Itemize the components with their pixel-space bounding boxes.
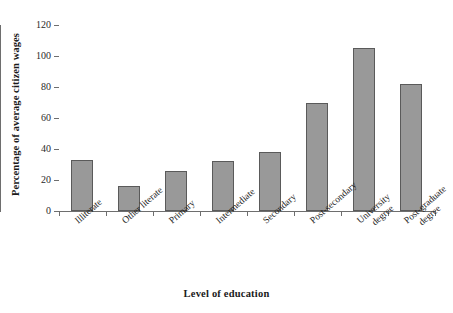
y-axis-tick-label: 120 <box>36 18 51 31</box>
y-axis-title: Percentage of average citizen wages <box>4 7 26 222</box>
bar <box>306 103 328 212</box>
y-axis-tick-label: 100 <box>36 49 51 62</box>
y-axis-tick-label: 0 <box>46 204 51 217</box>
x-axis-tick-mark <box>153 211 154 216</box>
y-axis-tick-mark <box>54 87 59 88</box>
bar <box>400 84 422 211</box>
y-axis-tick-mark <box>54 25 59 26</box>
y-axis-tick-mark <box>54 180 59 181</box>
x-axis-tick-mark <box>294 211 295 216</box>
x-axis-tick-mark <box>59 211 60 216</box>
y-axis-tick-label: 40 <box>41 142 51 155</box>
y-axis-tick-mark <box>54 118 59 119</box>
bar-chart-figure: Percentage of average citizen wages 0204… <box>0 0 453 313</box>
x-axis-tick-mark <box>200 211 201 216</box>
y-axis-tick-label: 20 <box>41 173 51 186</box>
y-axis-tick-mark <box>54 149 59 150</box>
x-axis-tick-mark <box>247 211 248 216</box>
x-axis-tick-mark <box>341 211 342 216</box>
y-axis-tick-label: 60 <box>41 111 51 124</box>
plot-area: 020406080100120 <box>59 25 435 211</box>
y-axis-line <box>0 25 1 212</box>
x-axis-title: Level of education <box>0 288 453 299</box>
x-axis-tick-mark <box>106 211 107 216</box>
y-axis-tick-label: 80 <box>41 80 51 93</box>
y-axis-tick-mark <box>54 56 59 57</box>
